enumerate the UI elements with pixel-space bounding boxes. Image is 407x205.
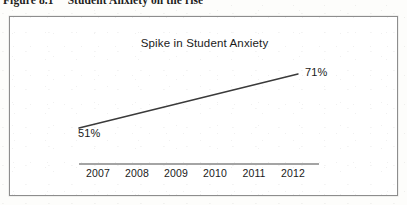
x-tick-2008: 2008 xyxy=(120,167,154,179)
figure-frame: Spike in Student Anxiety 51% 71% 2007 20… xyxy=(9,16,398,196)
figure-caption-number: Figure 8.1 xyxy=(3,0,54,6)
data-label-end: 71% xyxy=(305,66,327,78)
figure-caption: Figure 8.1Student Anxiety on the rise xyxy=(3,0,203,7)
x-axis-tick-labels: 2007 2008 2009 2010 2011 2012 xyxy=(10,167,399,183)
x-tick-2011: 2011 xyxy=(237,167,271,179)
x-tick-2010: 2010 xyxy=(198,167,232,179)
x-tick-2009: 2009 xyxy=(159,167,193,179)
x-tick-2012: 2012 xyxy=(276,167,310,179)
data-label-start: 51% xyxy=(78,127,100,139)
trend-line xyxy=(79,74,298,128)
figure-caption-text: Student Anxiety on the rise xyxy=(68,0,204,6)
x-tick-2007: 2007 xyxy=(81,167,115,179)
